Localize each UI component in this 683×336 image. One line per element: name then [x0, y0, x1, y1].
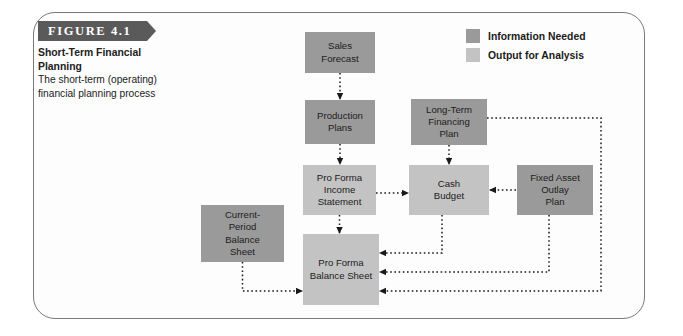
- node-fixed-asset: Fixed AssetOutlayPlan: [517, 165, 593, 215]
- node-label: Long-TermFinancingPlan: [426, 104, 472, 141]
- legend-swatch-information-needed: [466, 29, 480, 43]
- caption-subtitle-line2: financial planning process: [38, 87, 218, 100]
- node-label: Current-PeriodBalanceSheet: [225, 209, 260, 258]
- node-cash-budget: CashBudget: [409, 165, 489, 215]
- node-label: Fixed AssetOutlayPlan: [530, 172, 580, 209]
- node-long-term-fin: Long-TermFinancingPlan: [411, 99, 487, 145]
- node-label: ProductionPlans: [317, 110, 363, 135]
- node-pro-forma-bs: Pro FormaBalance Sheet: [303, 234, 379, 305]
- legend: Information NeededOutput for Analysis: [466, 29, 586, 67]
- legend-item-information-needed: Information Needed: [466, 29, 586, 43]
- caption-title-line2: Planning: [38, 60, 218, 74]
- node-sales-forecast: SalesForecast: [305, 32, 375, 73]
- caption-subtitle-line1: The short-term (operating): [38, 73, 218, 86]
- node-label: SalesForecast: [321, 40, 358, 65]
- figure-page: FIGURE 4.1 Short-Term Financial Planning…: [0, 0, 683, 336]
- legend-label: Output for Analysis: [488, 50, 584, 61]
- node-current-period-bs: Current-PeriodBalanceSheet: [201, 205, 284, 262]
- figure-banner-label: FIGURE 4.1: [48, 24, 131, 39]
- node-production-plans: ProductionPlans: [305, 100, 375, 144]
- node-pro-forma-income: Pro FormaIncomeStatement: [303, 165, 376, 215]
- node-label: Pro FormaIncomeStatement: [317, 172, 362, 209]
- figure-caption: Short-Term Financial Planning The short-…: [38, 46, 218, 100]
- legend-swatch-output-for-analysis: [466, 48, 480, 62]
- node-label: CashBudget: [434, 178, 464, 203]
- banner-tip-shape: [147, 21, 156, 41]
- figure-banner: FIGURE 4.1: [38, 21, 147, 41]
- legend-item-output-for-analysis: Output for Analysis: [466, 48, 586, 62]
- caption-title-line1: Short-Term Financial: [38, 46, 218, 60]
- legend-label: Information Needed: [488, 31, 586, 42]
- node-label: Pro FormaBalance Sheet: [310, 257, 372, 282]
